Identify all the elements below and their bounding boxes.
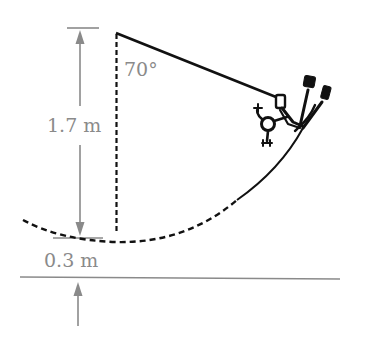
- swing-path-dashed: [23, 200, 237, 242]
- swing-path-solid: [237, 128, 303, 200]
- lower-arrow-head-down-icon: [76, 222, 85, 236]
- pendulum-diagram: [0, 0, 366, 338]
- upper-arrow-head-up-icon: [76, 30, 85, 44]
- angle-label: 70°: [124, 60, 158, 79]
- ground-line: [20, 277, 340, 279]
- climber-icon: [254, 75, 331, 146]
- ground-arrow-head-up-icon: [74, 282, 83, 296]
- lower-height-label: 0.3 m: [44, 251, 98, 270]
- upper-height-label: 1.7 m: [47, 116, 101, 135]
